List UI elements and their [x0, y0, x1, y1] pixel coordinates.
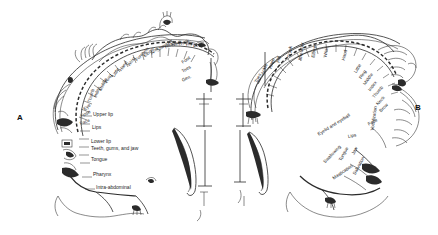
- label-a-lower-lip: Lower lip: [91, 139, 111, 144]
- label-a-intra-abdominal: Intra-abdominal: [96, 185, 131, 190]
- label-a-leg: Leg: [193, 42, 201, 48]
- scale-bar-left-top: [196, 93, 212, 127]
- panel-a-leg-figure: [196, 41, 219, 86]
- panel-a-base: [55, 176, 156, 217]
- homunculus-figure: A B Middle Ring Little Hand Wrist Forear…: [0, 0, 438, 235]
- scale-bar-right-top: [236, 93, 251, 127]
- label-a-teeth-gums-jaw: Teeth, gums, and jaw: [91, 146, 138, 151]
- left-hand-cluster-a: [75, 44, 97, 62]
- label-a-pharynx: Pharynx: [93, 172, 111, 177]
- cortex-profile-left: [172, 128, 212, 221]
- label-a-upper-lip: Upper lip: [93, 112, 113, 117]
- panel-b-letter: B: [415, 103, 421, 112]
- panel-a-letter: A: [17, 113, 23, 122]
- label-b-hip: Hip: [276, 55, 282, 63]
- panel-b-face: [392, 79, 419, 146]
- apex-hand-a: [160, 11, 172, 28]
- panel-b-hand: [378, 46, 416, 85]
- cortex-profile-right: [234, 130, 268, 206]
- label-a-lips: Lips: [92, 125, 101, 130]
- label-a-tongue: Tongue: [91, 157, 107, 162]
